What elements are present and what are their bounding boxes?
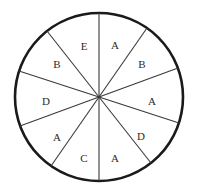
sector-label-7: D [42,95,50,107]
spinner-svg-canvas: A B A D A C A D B E [0,0,198,192]
sector-label-1: B [138,58,145,70]
sector-label-4: A [111,152,119,164]
sector-label-2: A [148,95,156,107]
sector-label-3: D [137,130,145,142]
sector-label-0: A [111,39,119,51]
sector-label-5: C [80,152,87,164]
spinner-diagram: A B A D A C A D B E [0,0,198,192]
sector-label-8: B [53,58,60,70]
sector-label-9: E [81,40,88,52]
sector-label-6: A [53,131,61,143]
